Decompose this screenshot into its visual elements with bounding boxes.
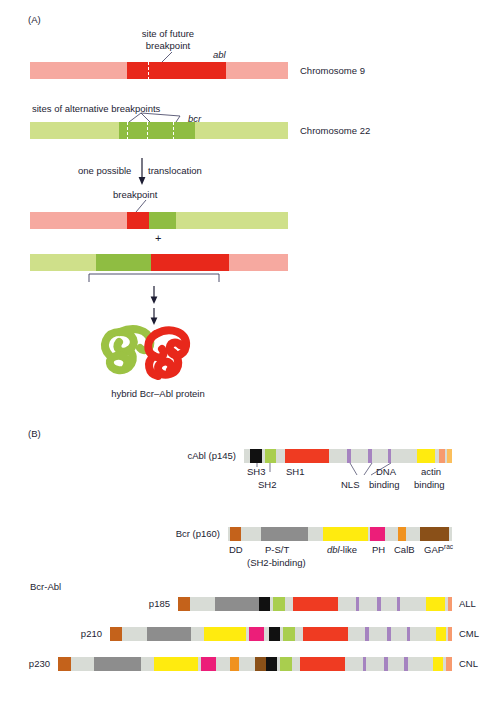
- segment-gap-a: [241, 527, 261, 541]
- protein-bar-cAbl: [244, 449, 452, 463]
- segment-dna: [426, 597, 445, 611]
- domain-label-gapsup: rac: [444, 541, 453, 553]
- segment-actin-1: [446, 657, 452, 671]
- segment-dbl: [204, 627, 246, 641]
- segment-gap-c: [329, 449, 347, 463]
- segment-abl-dark: [127, 212, 149, 229]
- protein-bar-p210: [110, 627, 452, 641]
- translocation-arrow: [137, 158, 149, 186]
- segment-gap-f: [449, 527, 452, 541]
- segment-sh3: [250, 449, 261, 463]
- segment-gap-e: [406, 527, 420, 541]
- segment-gap-i: [367, 657, 385, 671]
- segment-abl-light: [229, 254, 288, 271]
- segment-pst: [147, 627, 191, 641]
- segment-gap-d: [385, 527, 397, 541]
- segment-gap-d: [216, 657, 230, 671]
- segment-pst: [94, 657, 140, 671]
- segment-ph: [249, 627, 264, 641]
- translocation-label: translocation: [148, 165, 202, 177]
- segment-abl-light: [30, 212, 127, 229]
- fusion-region-bracket: [88, 272, 220, 282]
- segment-sh2: [280, 657, 292, 671]
- segment-gap-c: [285, 597, 293, 611]
- segment-dd: [178, 597, 190, 611]
- segment-pst: [261, 527, 308, 541]
- domain-label-nls: NLS: [341, 479, 359, 491]
- segment-dbl-like: [323, 527, 368, 541]
- segment-gap-j: [410, 627, 435, 641]
- chromosome-22-bar: [30, 122, 288, 139]
- segment-dd: [230, 527, 241, 541]
- chromosome-9-bar: [30, 62, 288, 79]
- segment-sh2: [283, 627, 295, 641]
- segment-sh1: [293, 597, 338, 611]
- segment-sh3: [269, 627, 280, 641]
- segment-dna-binding: [417, 449, 436, 463]
- segment-ph: [370, 527, 386, 541]
- segment-bcr-region: [119, 122, 195, 139]
- segment-calb: [398, 527, 406, 541]
- protein-name-p230: p230: [29, 658, 50, 670]
- segment-dd: [58, 657, 71, 671]
- segment-gap-b: [141, 657, 154, 671]
- domain-label-pst: P-S/T: [265, 544, 289, 556]
- segment-gap-i: [391, 627, 407, 641]
- segment-gaprac: [255, 657, 266, 671]
- segment-gap-b: [191, 627, 205, 641]
- protein-name-Bcr: Bcr (p160): [176, 528, 220, 540]
- cabl-domain-leader-lines: [244, 463, 454, 479]
- derivative-chromosome-9-bar: [30, 212, 288, 229]
- segment-bcr-dark: [149, 212, 176, 229]
- segment-gap-f: [391, 449, 416, 463]
- segment-gap-b: [308, 527, 323, 541]
- protein-bar-p185: [178, 597, 452, 611]
- segment-abl-region: [127, 62, 226, 79]
- disease-label-p185: ALL: [459, 598, 476, 610]
- segment-actin-2: [447, 449, 452, 463]
- segment-gap-f: [295, 627, 303, 641]
- segment-gap-g: [292, 657, 299, 671]
- segment-dna: [436, 627, 446, 641]
- segment-pst: [215, 597, 259, 611]
- segment-sh1: [285, 449, 330, 463]
- segment-gap-j: [388, 657, 404, 671]
- segment-bcr-dark: [96, 254, 151, 271]
- disease-label-p210: CML: [459, 628, 479, 640]
- panel-b-tag: (B): [28, 428, 41, 439]
- segment-dna: [433, 657, 443, 671]
- chromosome-22-label: Chromosome 22: [300, 125, 370, 137]
- domain-label-sh2: SH2: [258, 479, 276, 491]
- segment-sh3: [259, 597, 270, 611]
- domain-label-dd: DD: [229, 544, 243, 556]
- breakpoint-label: breakpoint: [113, 189, 157, 201]
- hybrid-bcr-abl-protein-icon: [96, 322, 220, 384]
- protein-name-p185: p185: [149, 598, 170, 610]
- chromosome-9-label: Chromosome 9: [300, 65, 365, 77]
- segment-gap-a: [190, 597, 215, 611]
- protein-name-cAbl: cAbl (p145): [187, 450, 236, 462]
- segment-dbl: [154, 657, 198, 671]
- one-possible-label: one possible: [78, 165, 131, 177]
- segment-abl-dark: [151, 254, 228, 271]
- domain-label-ph: PH: [372, 544, 385, 556]
- domain-label-sh2b: (SH2-binding): [247, 557, 306, 569]
- breakpoint-dash-0: [127, 122, 128, 139]
- segment-gap-d: [351, 449, 369, 463]
- segment-bcr-light: [176, 212, 288, 229]
- segment-sh3: [266, 657, 277, 671]
- segment-sh2: [273, 597, 285, 611]
- site-of-future-breakpoint-label-line2: breakpoint: [113, 40, 223, 52]
- segment-gap-a: [122, 627, 147, 641]
- abl-gene-label: abl: [213, 49, 226, 61]
- protein-bar-Bcr: [228, 527, 452, 541]
- figure-root: (A) (B) site of future breakpoint abl Ch…: [0, 0, 503, 709]
- segment-gap-g: [400, 597, 425, 611]
- segment-dd: [110, 627, 122, 641]
- domain-label-actinb: binding: [414, 479, 445, 491]
- domain-label-dbl: dbl-like: [327, 544, 357, 556]
- segment-calb: [230, 657, 239, 671]
- segment-sh1: [300, 657, 345, 671]
- segment-gap-rac: [420, 527, 449, 541]
- domain-label-calb: CalB: [394, 544, 415, 556]
